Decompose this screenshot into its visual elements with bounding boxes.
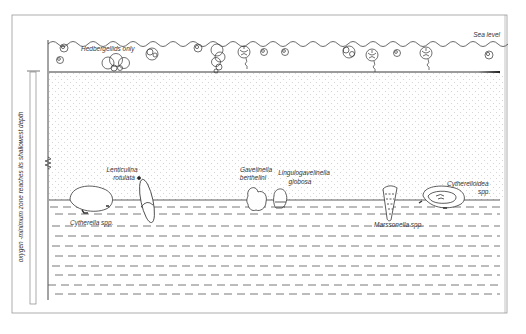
taxon-lenticulina-2: rotulata	[113, 174, 135, 181]
omz-top-line-tip	[478, 71, 500, 73]
taxon-cytherella: Cytherella spp.	[70, 219, 114, 227]
sea-level-label: Sea level	[473, 31, 500, 38]
taxon-cytherelloidea-2: spp.	[478, 188, 490, 196]
taxon-gavelinella-1: Gavelinella	[240, 166, 273, 173]
omz-axis-label: oxygen -minimum zone reaches its shallow…	[17, 111, 25, 262]
figure-canvas: Sea level Hedbergellids only oxygen -min…	[0, 0, 526, 334]
hedbergellids-label: Hedbergellids only	[81, 45, 135, 53]
taxon-gavelinella-2: berthelini	[240, 174, 267, 181]
sediment-dashed-lines	[48, 207, 500, 294]
omz-depth-bar	[30, 72, 36, 304]
taxon-marssonella: Marssonella spp.	[374, 221, 423, 229]
taxon-lingulogavelinella-1: Lingulogavelinella	[278, 169, 330, 177]
taxon-lingulogavelinella-2: globosa	[289, 178, 312, 186]
taxon-cytherelloidea-1: Cytherelloidea	[447, 180, 489, 188]
taxon-lenticulina-1: Lenticulina	[106, 166, 137, 173]
